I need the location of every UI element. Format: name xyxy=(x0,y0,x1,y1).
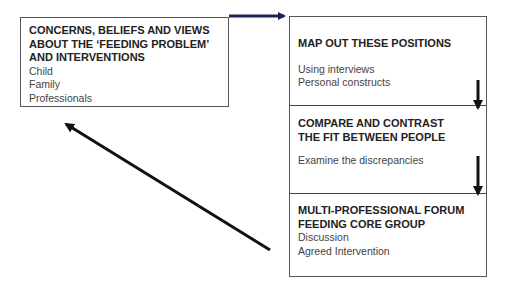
arrow-back-diagonal-icon xyxy=(66,124,270,250)
arrows-layer xyxy=(0,0,511,292)
